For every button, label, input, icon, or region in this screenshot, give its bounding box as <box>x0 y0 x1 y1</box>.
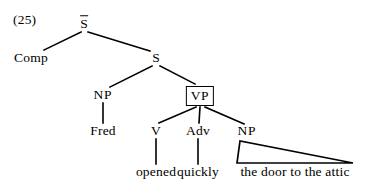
node-s: S <box>152 51 160 65</box>
branch-s-to-np-subject <box>110 66 152 87</box>
terminal-fred: Fred <box>90 124 116 138</box>
node-np-subject: NP <box>93 88 112 102</box>
constituent-triangle-icon <box>237 141 353 163</box>
branch-s-to-vp <box>160 66 195 84</box>
branch-vp-to-v <box>159 107 196 123</box>
node-s-bar: S <box>80 15 88 31</box>
syntax-tree-figure: (25) S Comp S NP VP V Adv NP Fred opened… <box>0 0 366 187</box>
terminal-opened: opened <box>136 165 176 179</box>
node-np-object: NP <box>237 124 256 138</box>
node-v: V <box>151 124 161 138</box>
node-vp-label: VP <box>186 86 214 106</box>
branch-vp-to-adv <box>199 107 200 123</box>
tree-branch-lines <box>0 0 366 187</box>
terminal-quickly: quickly <box>177 165 219 179</box>
node-s-bar-label: S <box>80 15 88 31</box>
branch-sbar-to-s <box>88 32 150 51</box>
node-comp: Comp <box>14 51 48 65</box>
node-adv: Adv <box>186 124 210 138</box>
branch-sbar-to-comp <box>44 32 81 50</box>
node-vp-boxed: VP <box>186 87 214 103</box>
terminal-object-phrase: the door to the attic <box>240 165 349 179</box>
branch-vp-to-np-object <box>205 107 244 124</box>
example-number: (25) <box>13 13 36 27</box>
